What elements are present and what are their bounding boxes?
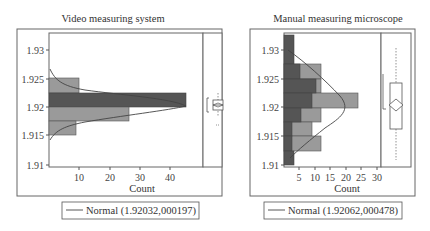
bar-dark	[284, 64, 300, 79]
svg-text:1.91: 1.91	[262, 160, 280, 171]
chart-manual-measuring-microscope: Manual measuring microscope	[250, 13, 415, 219]
svg-text:1.92: 1.92	[27, 102, 45, 113]
svg-text:15: 15	[325, 172, 335, 183]
x-axis-label: Count	[334, 183, 360, 194]
bar-1.9175	[49, 107, 129, 121]
x-axis-label: Count	[129, 183, 155, 194]
x-axis: 5 10 15 20 25 30 Count	[297, 167, 383, 194]
svg-text:10: 10	[74, 172, 84, 183]
bar-dark	[284, 93, 312, 108]
svg-text:40: 40	[165, 172, 175, 183]
bar-1.925	[49, 78, 79, 93]
svg-text:30: 30	[135, 172, 145, 183]
chart-title: Manual measuring microscope	[273, 13, 403, 24]
svg-text:30: 30	[372, 172, 382, 183]
y-axis: 1.93 1.925 1.92 1.915 1.91	[22, 45, 50, 171]
legend: Normal (1.92062,000478)	[264, 202, 402, 219]
svg-text:1.915: 1.915	[257, 131, 280, 142]
bar-dark	[284, 79, 316, 93]
legend: Normal (1.92032,000197)	[62, 202, 199, 219]
svg-text:1.915: 1.915	[22, 130, 45, 141]
bar-dark	[284, 35, 294, 64]
svg-text:10: 10	[310, 172, 320, 183]
legend-label: Normal (1.92062,000478)	[288, 205, 398, 217]
svg-text:25: 25	[356, 172, 366, 183]
svg-text:1.925: 1.925	[22, 74, 45, 85]
chart-title: Video measuring system	[61, 13, 164, 24]
svg-text:1.93: 1.93	[262, 45, 280, 56]
svg-text:1.92: 1.92	[262, 102, 280, 113]
bar-1.915	[49, 121, 76, 135]
svg-text:20: 20	[105, 172, 115, 183]
svg-text:1.93: 1.93	[27, 45, 45, 56]
y-axis: 1.93 1.925 1.92 1.915 1.91	[257, 45, 285, 171]
svg-text:5: 5	[297, 172, 302, 183]
svg-text:1.91: 1.91	[27, 160, 45, 171]
svg-text:20: 20	[341, 172, 351, 183]
bar-dark	[284, 122, 292, 136]
bar-dark	[284, 151, 294, 165]
legend-label: Normal (1.92032,000197)	[86, 205, 196, 217]
x-axis: 10 20 30 40 Count	[74, 167, 175, 194]
bar-dark	[284, 136, 292, 151]
svg-text:1.925: 1.925	[257, 74, 280, 85]
bar-dark	[284, 108, 301, 122]
chart-video-measuring-system: Video measuring system 1.93 1.925 1.92 1…	[17, 13, 223, 219]
